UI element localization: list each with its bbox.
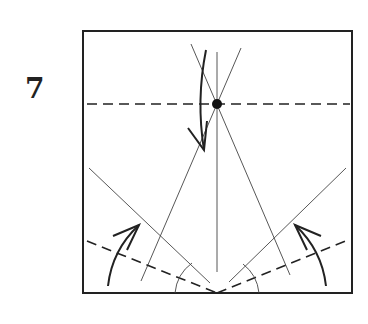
- arrowhead: [188, 121, 207, 150]
- valley-fold-right: [217, 240, 348, 293]
- diagonal-crease: [229, 168, 346, 282]
- crease-line: [141, 48, 241, 281]
- valley-fold-left: [87, 241, 217, 293]
- reference-dot: [212, 99, 222, 109]
- origami-diagram: [0, 0, 368, 324]
- crease-line: [191, 44, 290, 275]
- paper-square: [83, 31, 352, 293]
